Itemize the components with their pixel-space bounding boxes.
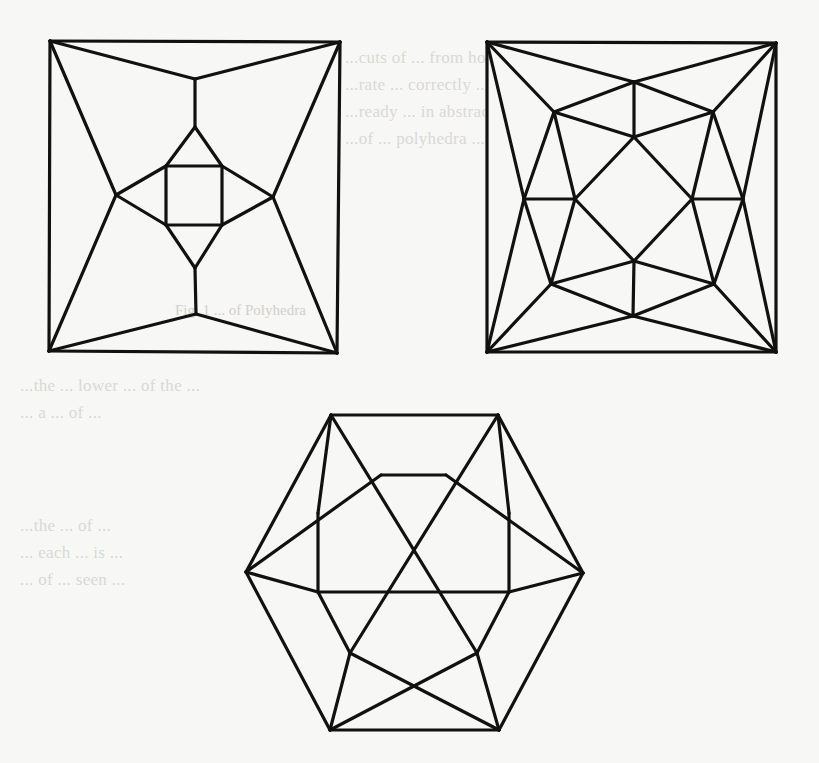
figure-hexagon	[246, 415, 583, 730]
edge-B1-B2	[195, 268, 196, 314]
edge-R-S3	[222, 197, 273, 225]
edge-TR-BR	[337, 42, 340, 353]
edge-UL-TI	[554, 112, 634, 137]
polyhedra-figures	[0, 0, 819, 763]
edge-DR-BI	[634, 261, 714, 284]
edge-L-S4	[116, 195, 166, 225]
edge-DL-BI	[551, 261, 634, 284]
edge-TL-LO	[487, 42, 524, 199]
edge-UL-TO	[554, 82, 634, 112]
edge-LI-DL	[551, 199, 575, 284]
edge-TR-T1	[195, 42, 340, 79]
edge-BR-BL	[49, 351, 337, 353]
edge-T2-S1	[166, 127, 195, 166]
edge-RO-DR	[714, 199, 743, 284]
edge-BL-BO	[487, 316, 633, 352]
edge-BI-LI	[575, 199, 634, 261]
edge-BR-B1	[196, 314, 337, 353]
edge-BL-TL	[49, 41, 50, 351]
edge-SBL-LL	[318, 592, 350, 653]
edge-TR-RO	[743, 43, 776, 199]
edge-BR-RO	[743, 199, 776, 352]
edge-TI-LI	[575, 137, 634, 199]
edge-UR-TI	[634, 112, 713, 137]
edge-DR-BO	[633, 284, 714, 316]
edge-UL-LI	[554, 112, 575, 199]
edge-TL-TR	[487, 42, 776, 43]
edge-LL-HBL	[330, 653, 350, 730]
edge-BR-DR	[714, 284, 776, 352]
edge-BR-R	[273, 197, 337, 353]
edge-SBR-LR	[477, 592, 509, 653]
edge-HR-HBR	[499, 573, 583, 730]
edge-L-S1	[116, 166, 166, 195]
edge-HTL-LR	[331, 415, 477, 653]
edge-TL-TR	[50, 41, 340, 42]
edge-ITL-HL	[246, 475, 381, 572]
edge-LR-HBR	[477, 653, 499, 730]
edge-HBL-HL	[246, 572, 330, 730]
edge-BL-LO	[487, 199, 524, 352]
edge-UL-LO	[524, 112, 554, 199]
edge-LL-HBR	[350, 653, 499, 730]
edge-UR-RO	[713, 112, 743, 199]
edge-HR-SBR	[509, 573, 583, 592]
edge-UR-TO	[634, 82, 713, 112]
edge-TR-R	[273, 42, 340, 197]
edge-TR-TO	[634, 43, 776, 82]
edge-LO-DL	[524, 199, 551, 284]
edge-HTR-HR	[498, 415, 583, 573]
edge-BL-B1	[49, 314, 196, 351]
edge-BR-BO	[633, 316, 776, 352]
edge-ITR-HR	[446, 475, 583, 573]
edge-DL-BO	[551, 284, 633, 316]
edge-B2-S4	[166, 225, 195, 268]
edge-BL-L	[49, 195, 116, 351]
edge-HTR-LL	[350, 415, 498, 653]
edge-TR-UR	[713, 43, 776, 112]
figure-square-inner-square	[49, 41, 340, 353]
edge-TL-L	[50, 41, 116, 195]
edge-UR-RI	[692, 112, 713, 199]
edge-TL-TO	[487, 42, 634, 82]
edge-LR-HBL	[330, 653, 477, 730]
edge-B2-S3	[195, 225, 222, 268]
edge-RI-DR	[692, 199, 714, 284]
edge-TI-RI	[634, 137, 692, 199]
edge-BI-BO	[633, 261, 634, 316]
edge-R-S2	[222, 166, 273, 197]
figure-square-octagon	[487, 42, 776, 352]
edge-BI-RI	[634, 199, 692, 261]
edge-TL-T1	[50, 41, 195, 79]
edge-T2-S2	[195, 127, 222, 166]
